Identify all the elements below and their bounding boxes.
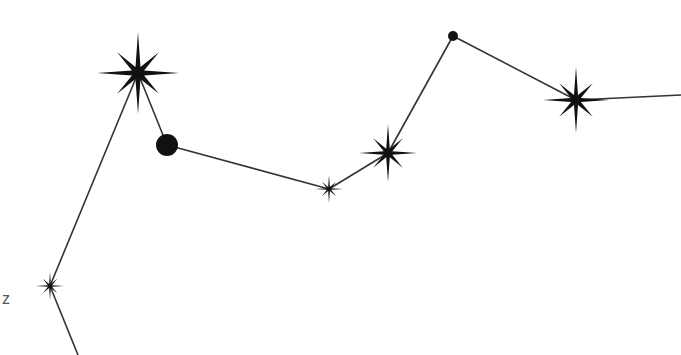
constellation-lines [50, 36, 681, 355]
constellation-diagram [0, 0, 681, 355]
constellation-line [453, 36, 576, 100]
star-icon [36, 272, 64, 300]
constellation-line [329, 153, 388, 189]
constellation-line [50, 73, 138, 286]
constellation-line [138, 73, 167, 145]
star-icon [359, 124, 417, 182]
star-icon [97, 32, 179, 114]
constellation-line [167, 145, 329, 189]
star-dot-icon [156, 134, 178, 156]
constellation-line [388, 36, 453, 153]
star-icon [543, 67, 609, 133]
star-icon [315, 175, 343, 203]
star-dot-icon [448, 31, 458, 41]
constellation-line [50, 286, 78, 355]
constellation-label: z [2, 291, 10, 307]
constellation-stars [36, 31, 609, 300]
